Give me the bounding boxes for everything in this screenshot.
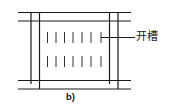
figure-caption: b)	[66, 92, 75, 102]
slot-marks	[48, 32, 102, 67]
slot-annotation-label: 开槽	[136, 31, 158, 42]
vertical-lines	[31, 12, 118, 89]
horizontal-lines	[18, 13, 131, 90]
diagram-canvas	[0, 0, 170, 108]
